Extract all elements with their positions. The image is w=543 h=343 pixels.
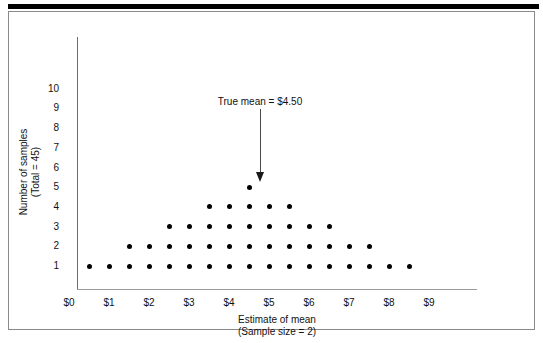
data-dot <box>287 264 292 269</box>
x-tick-label: $3 <box>174 298 204 308</box>
data-dot <box>147 244 152 249</box>
data-dot <box>167 264 172 269</box>
data-dot <box>327 244 332 249</box>
data-dot <box>327 264 332 269</box>
y-tick-label: 2 <box>35 241 59 251</box>
x-tick-label: $0 <box>54 298 84 308</box>
data-dot <box>167 244 172 249</box>
data-dot <box>207 244 212 249</box>
data-dot <box>287 204 292 209</box>
data-dot <box>247 185 252 190</box>
y-tick-label: 9 <box>35 103 59 113</box>
x-tick-label: $7 <box>334 298 364 308</box>
data-dot <box>267 224 272 229</box>
data-dot <box>107 264 112 269</box>
data-dot <box>147 264 152 269</box>
annotation-arrow-shaft <box>260 109 261 174</box>
data-dot <box>307 224 312 229</box>
data-dot <box>287 244 292 249</box>
data-dot <box>167 224 172 229</box>
data-dot <box>207 204 212 209</box>
data-dot <box>187 224 192 229</box>
data-dot <box>267 264 272 269</box>
y-axis-title-line1: Number of samples <box>18 107 30 237</box>
data-dot <box>347 264 352 269</box>
annotation-arrow-head-icon <box>256 172 264 182</box>
y-tick-label: 10 <box>35 84 59 94</box>
true-mean-annotation: True mean = $4.50 <box>184 96 336 107</box>
data-dot <box>307 244 312 249</box>
x-axis-title: Estimate of mean (Sample size = 2) <box>177 314 377 338</box>
x-tick-label: $6 <box>294 298 324 308</box>
data-dot <box>367 264 372 269</box>
data-dot <box>347 244 352 249</box>
y-tick-label: 6 <box>35 163 59 173</box>
x-axis-title-line1: Estimate of mean <box>177 314 377 326</box>
data-dot <box>327 224 332 229</box>
x-tick-label: $1 <box>94 298 124 308</box>
data-dot <box>227 264 232 269</box>
data-dot <box>127 264 132 269</box>
data-dot <box>407 264 412 269</box>
data-dot <box>247 244 252 249</box>
y-tick-label: 8 <box>35 123 59 133</box>
figure-dot-plot: Number of samples (Total = 45) Estimate … <box>0 0 543 343</box>
top-rule-decoration <box>8 4 539 9</box>
data-dot <box>127 244 132 249</box>
data-dot <box>87 264 92 269</box>
data-dot <box>207 264 212 269</box>
data-dot <box>247 264 252 269</box>
data-dot <box>247 224 252 229</box>
x-tick-label: $4 <box>214 298 244 308</box>
data-dot <box>227 244 232 249</box>
data-dot <box>227 224 232 229</box>
data-dot <box>267 204 272 209</box>
x-axis-title-line2: (Sample size = 2) <box>177 326 377 338</box>
x-axis-line <box>77 289 477 290</box>
y-tick-label: 3 <box>35 222 59 232</box>
data-dot <box>207 224 212 229</box>
y-tick-label: 4 <box>35 202 59 212</box>
y-tick-label: 1 <box>35 261 59 271</box>
x-tick-label: $5 <box>254 298 284 308</box>
x-tick-label: $9 <box>414 298 444 308</box>
x-tick-label: $8 <box>374 298 404 308</box>
data-dot <box>307 264 312 269</box>
data-dot <box>267 244 272 249</box>
data-dot <box>287 224 292 229</box>
data-dot <box>227 204 232 209</box>
data-dot <box>247 204 252 209</box>
y-tick-label: 7 <box>35 143 59 153</box>
y-tick-label: 5 <box>35 182 59 192</box>
y-axis-line <box>77 37 78 289</box>
data-dot <box>187 264 192 269</box>
data-dot <box>387 264 392 269</box>
figure-frame: Number of samples (Total = 45) Estimate … <box>8 11 535 330</box>
data-dot <box>367 244 372 249</box>
data-dot <box>187 244 192 249</box>
x-tick-label: $2 <box>134 298 164 308</box>
